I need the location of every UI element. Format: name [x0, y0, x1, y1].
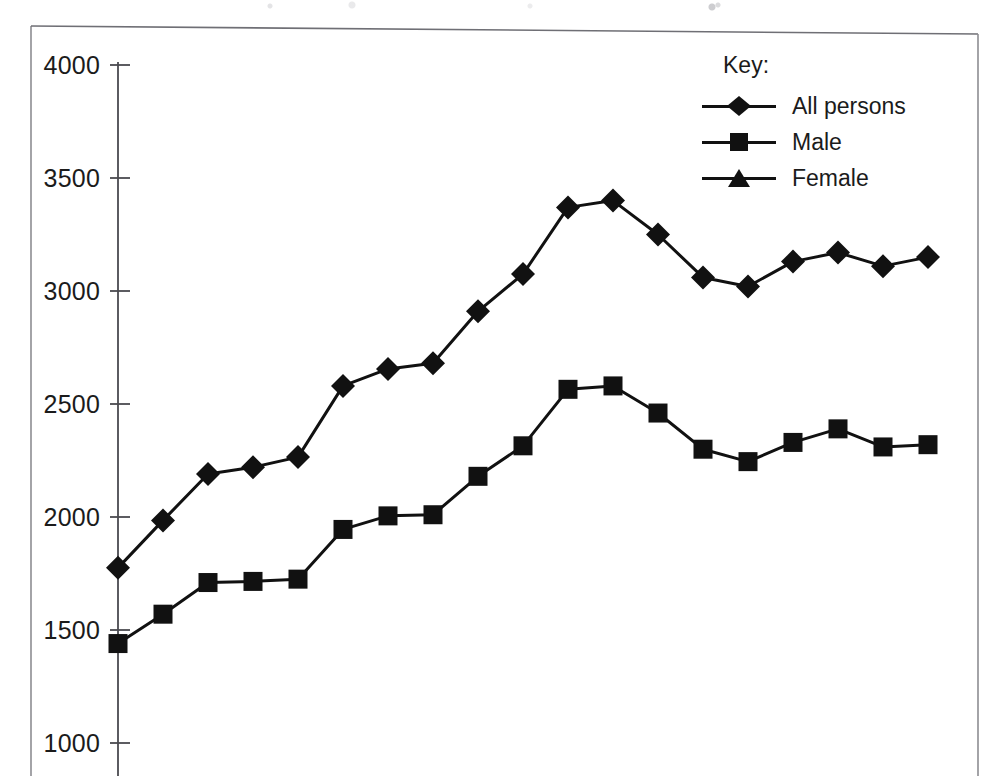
series-all-persons — [106, 189, 940, 580]
legend-item-male[interactable]: Male — [700, 124, 960, 160]
square-marker-icon — [700, 129, 778, 155]
data-point — [244, 572, 263, 591]
legend-item-female[interactable]: Female — [700, 160, 960, 196]
data-point — [514, 436, 533, 455]
legend-item-all-persons[interactable]: All persons — [700, 88, 960, 124]
y-axis — [110, 62, 130, 776]
series-line — [118, 386, 928, 644]
data-point — [334, 520, 353, 539]
data-point — [289, 570, 308, 589]
data-point — [874, 437, 893, 456]
data-point — [556, 195, 580, 219]
data-point — [694, 440, 713, 459]
series-line — [118, 201, 928, 568]
data-point — [379, 506, 398, 525]
data-point — [919, 435, 938, 454]
data-point — [736, 274, 760, 298]
chart-page: 4000 3500 3000 2500 2000 1500 1000 Key: — [0, 0, 999, 776]
data-point — [871, 254, 895, 278]
data-point — [601, 189, 625, 213]
data-point — [469, 467, 488, 486]
data-point — [604, 376, 623, 395]
triangle-marker-icon — [700, 165, 778, 191]
data-point — [916, 245, 940, 269]
data-point — [109, 634, 128, 653]
data-point — [154, 605, 173, 624]
data-series-layer — [106, 189, 940, 653]
data-point — [331, 374, 355, 398]
data-point — [826, 241, 850, 265]
data-point — [784, 433, 803, 452]
data-point — [286, 445, 310, 469]
data-point — [376, 357, 400, 381]
data-point — [649, 404, 668, 423]
data-point — [739, 452, 758, 471]
data-point — [241, 455, 265, 479]
data-point — [829, 419, 848, 438]
legend: Key: All persons Male — [700, 52, 960, 196]
legend-label-all-persons: All persons — [792, 93, 906, 120]
data-point — [781, 250, 805, 274]
data-point — [424, 505, 443, 524]
data-point — [199, 573, 218, 592]
legend-label-female: Female — [792, 165, 869, 192]
data-point — [559, 380, 578, 399]
diamond-marker-icon — [700, 93, 778, 119]
legend-label-male: Male — [792, 129, 842, 156]
legend-title: Key: — [723, 52, 960, 79]
series-male — [109, 376, 938, 653]
